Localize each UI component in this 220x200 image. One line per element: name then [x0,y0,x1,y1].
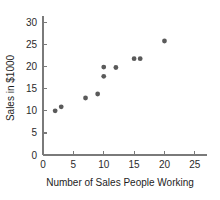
y-axis: 051015202530 [26,16,47,161]
y-tick-label: 0 [31,150,37,161]
y-tick-label: 10 [26,105,38,116]
y-tick-label: 25 [26,39,38,50]
data-point [132,56,137,61]
data-point [53,108,58,113]
y-tick-label: 30 [26,17,38,28]
x-tick-label: 0 [40,159,46,170]
x-axis: 0510152025 [40,151,207,170]
data-point [101,74,106,79]
data-point [83,96,88,101]
data-point [59,104,64,109]
x-tick-label: 25 [189,159,201,170]
scatter-plot-svg: 051015202530 0510152025 Sales in $1000 N… [0,0,220,200]
data-point [162,39,167,44]
scatter-chart: 051015202530 0510152025 Sales in $1000 N… [0,0,220,200]
x-tick-label: 5 [71,159,77,170]
y-tick-label: 5 [31,127,37,138]
x-tick-label: 10 [98,159,110,170]
y-tick-label: 15 [26,83,38,94]
y-axis-title: Sales in $1000 [5,54,16,121]
x-tick-label: 20 [159,159,171,170]
data-point [113,65,118,70]
y-tick-label: 20 [26,61,38,72]
x-tick-label: 15 [129,159,141,170]
data-points-layer [53,39,167,114]
x-axis-title: Number of Sales People Working [46,177,194,188]
data-point [95,92,100,97]
data-point [101,65,106,70]
data-point [138,56,143,61]
